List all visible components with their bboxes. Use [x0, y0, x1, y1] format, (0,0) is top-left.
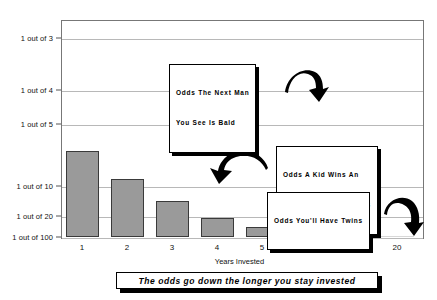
annotation-bald: Odds The Next Man You See Is Bald	[169, 64, 256, 153]
gridline-1-out-of-3	[62, 39, 423, 40]
x-tick-label-3: 4	[215, 243, 219, 252]
y-tick-label-5: 1 out of 100	[12, 233, 53, 242]
chart-canvas: 1 out of 3 1 out of 4 1 out of 5 1 out o…	[0, 0, 437, 300]
y-tick-mark-3	[56, 186, 61, 187]
y-tick-label-2: 1 out of 5	[21, 120, 53, 129]
y-axis: 1 out of 3 1 out of 4 1 out of 5 1 out o…	[0, 0, 61, 260]
bar-year-20	[381, 236, 414, 237]
y-tick-mark-4	[56, 216, 61, 217]
bar-year-4	[201, 218, 234, 237]
bar-year-2	[111, 179, 144, 237]
annotation-bald-line1: Odds The Next Man	[176, 88, 249, 98]
y-tick-mark-1	[56, 90, 61, 91]
y-tick-label-1: 1 out of 4	[21, 86, 53, 95]
x-tick-label-7: 20	[393, 243, 402, 252]
y-tick-mark-0	[56, 38, 61, 39]
footer-banner-text: The odds go down the longer you stay inv…	[116, 272, 378, 289]
curved-arrow-down-right-icon-twins	[382, 192, 424, 236]
x-tick-label-1: 2	[125, 243, 129, 252]
x-tick-label-4: 5	[260, 243, 264, 252]
x-tick-label-2: 3	[170, 243, 174, 252]
y-tick-mark-2	[56, 124, 61, 125]
bar-year-3	[156, 201, 189, 237]
y-tick-label-3: 1 out of 10	[16, 182, 53, 191]
annotation-argument-line1: Odds A Kid Wins An	[283, 170, 371, 180]
x-tick-label-0: 1	[80, 243, 84, 252]
bar-year-1	[66, 151, 99, 237]
annotation-twins-line1: Odds You'll Have Twins	[274, 216, 363, 226]
y-tick-label-0: 1 out of 3	[21, 34, 53, 43]
footer-banner: The odds go down the longer you stay inv…	[116, 272, 378, 289]
annotation-bald-line2: You See Is Bald	[176, 118, 249, 128]
annotation-twins-box: Odds You'll Have Twins	[267, 192, 370, 250]
curved-arrow-down-right-icon-bald	[283, 62, 329, 104]
y-tick-label-4: 1 out of 20	[16, 212, 53, 221]
x-axis-title: Years Invested	[0, 257, 437, 266]
y-tick-mark-5	[56, 237, 61, 238]
annotation-bald-box: Odds The Next Man You See Is Bald	[169, 64, 256, 153]
annotation-twins: Odds You'll Have Twins	[267, 192, 370, 250]
